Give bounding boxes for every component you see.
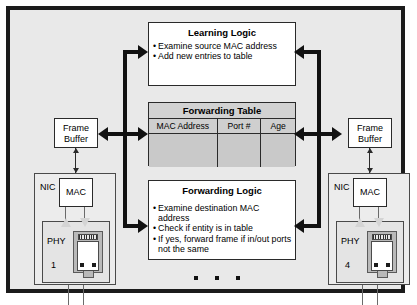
right-jack-contact-tx (386, 263, 390, 267)
right-port-number: 4 (345, 260, 350, 270)
right-nic: NIC MAC PHY 4 (328, 173, 410, 285)
right-cable-lead-b (377, 285, 378, 305)
right-jack-contact-rx (374, 263, 378, 267)
learning-logic-box: Learning Logic Examine source MAC addres… (148, 22, 296, 86)
left-jack-contact-rx (80, 263, 84, 267)
ellipsis-dot (194, 276, 198, 280)
arrow-to-forwarding-table-left (138, 127, 148, 141)
column-header-port-number: Port # (218, 119, 262, 133)
left-bus-branch-framebuffer (107, 132, 125, 136)
arrow-to-forwarding-table-right (294, 127, 304, 141)
arrow-to-left-frame-buffer (98, 127, 108, 141)
left-cable-lead-b (83, 285, 84, 305)
right-transmit-triangle-icon (374, 218, 384, 227)
forwarding-table: Forwarding Table MAC Address Port # Age (148, 102, 296, 166)
left-transmit-triangle-icon (80, 218, 90, 227)
right-phy: PHY 4 (336, 221, 404, 283)
left-frame-buffer-line1: Frame (63, 123, 89, 133)
table-cell-age (261, 134, 295, 167)
left-jack-pins-icon (78, 234, 98, 240)
forwarding-logic-bullets: Examine destination MAC address Check if… (149, 203, 295, 254)
learning-logic-bullet: Add new entries to table (153, 51, 292, 61)
column-header-mac-address: MAC Address (149, 119, 218, 133)
right-jack-inner (371, 241, 393, 271)
right-frame-buffer-line1: Frame (357, 123, 383, 133)
left-phy: PHY 1 (42, 221, 110, 283)
left-frame-buffer-line2: Buffer (64, 134, 88, 144)
left-bus-trunk (123, 50, 127, 228)
right-jack-pins-icon (372, 234, 392, 240)
forwarding-logic-bullet: Examine destination MAC address (153, 203, 292, 223)
learning-logic-bullets: Examine source MAC address Add new entri… (149, 41, 295, 61)
ellipsis-dot (215, 276, 219, 280)
arrow-to-forwarding-logic-left (138, 219, 148, 233)
ports-ellipsis (194, 276, 240, 280)
left-nic: NIC MAC PHY 1 (34, 173, 116, 285)
right-bus-branch-forwarding (303, 224, 321, 228)
right-mac: MAC (353, 178, 387, 207)
left-jack-contact-tx (92, 263, 96, 267)
table-cell-mac-address (149, 134, 218, 167)
column-header-age: Age (261, 119, 295, 133)
ellipsis-dot (236, 276, 240, 280)
left-receive-triangle-icon (61, 218, 71, 227)
right-receive-triangle-icon (355, 218, 365, 227)
right-rj45-jack (367, 231, 397, 273)
left-jack-latch (83, 271, 94, 278)
right-jack-latch (377, 271, 388, 278)
forwarding-logic-box: Forwarding Logic Examine destination MAC… (148, 180, 296, 260)
forwarding-logic-bullet: Check if entity is in table (153, 223, 292, 233)
arrow-to-right-frame-buffer (332, 127, 342, 141)
forwarding-table-header-row: MAC Address Port # Age (149, 119, 295, 134)
left-port-number: 1 (51, 260, 56, 270)
left-jack-inner (77, 241, 99, 271)
left-rj45-jack (73, 231, 103, 273)
right-fb-link-arrow-up (367, 148, 373, 153)
forwarding-table-body (149, 134, 295, 167)
left-cable-lead-a (68, 285, 69, 305)
learning-logic-bullet: Examine source MAC address (153, 41, 292, 51)
right-phy-label: PHY (341, 236, 360, 246)
left-fb-link-arrow-up (73, 148, 79, 153)
left-mac: MAC (59, 178, 93, 207)
left-phy-label: PHY (47, 236, 66, 246)
right-cable-lead-a (362, 285, 363, 305)
arrow-to-forwarding-logic-right (294, 219, 304, 233)
right-bus-branch-learning (303, 50, 321, 54)
switch-chassis: Learning Logic Examine source MAC addres… (6, 6, 405, 293)
arrow-to-learning-logic-right (294, 45, 304, 59)
right-nic-label: NIC (334, 182, 350, 192)
forwarding-logic-title: Forwarding Logic (149, 185, 295, 196)
right-frame-buffer-line2: Buffer (358, 134, 382, 144)
forwarding-table-title: Forwarding Table (149, 103, 295, 119)
forwarding-logic-bullet: If yes, forward frame if in/out ports no… (153, 234, 292, 254)
switch-architecture-diagram: Learning Logic Examine source MAC addres… (0, 0, 417, 305)
learning-logic-title: Learning Logic (149, 27, 295, 38)
table-cell-port-number (218, 134, 262, 167)
right-frame-buffer: Frame Buffer (348, 118, 392, 148)
right-bus-trunk (317, 50, 321, 228)
left-nic-label: NIC (40, 182, 56, 192)
left-frame-buffer: Frame Buffer (54, 118, 98, 148)
arrow-to-learning-logic (138, 45, 148, 59)
